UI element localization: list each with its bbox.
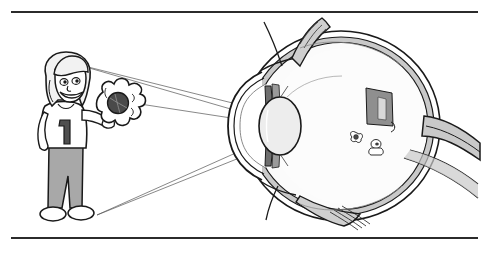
figure-container: How the eye forms an image Cross-section… xyxy=(0,0,497,253)
human-eye-cross-section xyxy=(228,18,480,230)
girl-pupil-right xyxy=(75,79,78,82)
retinal-image-highlight xyxy=(378,97,386,120)
girl-pants xyxy=(48,146,83,208)
girl-shoe-left xyxy=(40,207,66,221)
girl-shoe-right xyxy=(68,206,94,220)
lens xyxy=(259,97,301,155)
girl-pupil-left xyxy=(63,80,66,83)
eye-diagram-illustration xyxy=(0,0,497,253)
retinal-image-girl-body xyxy=(369,148,384,155)
retinal-image-girl-eye xyxy=(375,142,379,145)
retinal-image-flower-center xyxy=(354,135,359,140)
